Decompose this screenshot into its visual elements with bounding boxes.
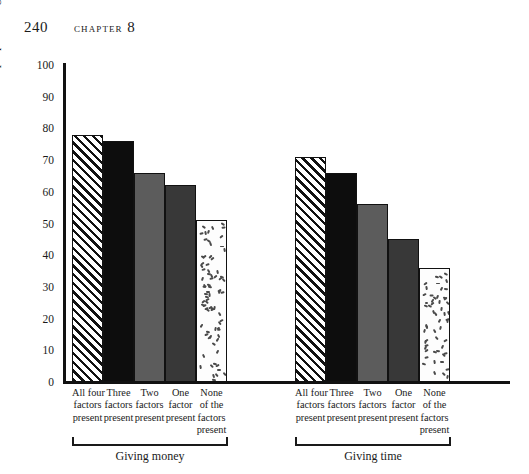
speckle-mark [447, 319, 449, 323]
category-label-line: One [388, 387, 419, 399]
category-label-line: factors [103, 399, 134, 411]
category-label-line: One [165, 387, 196, 399]
speckle-mark [200, 365, 202, 369]
speckle-mark [424, 282, 428, 285]
speckle-mark [433, 371, 436, 375]
category-label-line: present [419, 424, 450, 436]
category-label-line: of the [419, 399, 450, 411]
category-label: All fourfactorspresent [295, 387, 326, 437]
speckle-mark [437, 295, 440, 299]
speckle-mark [426, 286, 428, 290]
speckle-mark [439, 361, 443, 363]
speckle-mark [211, 257, 215, 260]
speckle-mark [214, 275, 218, 278]
category-label-line: present [165, 412, 196, 424]
speckle-mark [222, 278, 225, 282]
speckle-mark [215, 373, 218, 377]
bar-group-giving-money [72, 60, 227, 382]
speckle-mark [202, 277, 205, 281]
category-label: Threefactorspresent [326, 387, 357, 437]
speckle-mark [210, 278, 214, 280]
speckle-mark [202, 225, 206, 228]
speckle-mark [423, 329, 425, 333]
speckle-mark [442, 372, 446, 376]
category-label-line: present [134, 412, 165, 424]
speckle-mark [444, 288, 448, 290]
speckle-mark [220, 223, 224, 226]
category-label: Noneof thefactorspresent [419, 387, 450, 437]
category-label: Threefactorspresent [103, 387, 134, 437]
y-axis-tick-60: 60 [8, 186, 54, 198]
category-label-line: factors [196, 412, 227, 424]
category-label-line: Two [134, 387, 165, 399]
speckle-mark [222, 227, 226, 229]
speckle-mark [204, 292, 208, 294]
bar [419, 268, 450, 382]
speckle-mark [205, 333, 209, 336]
y-axis-tick-0: 0 [8, 376, 54, 388]
y-axis-tick-30: 30 [8, 281, 54, 293]
speckle-mark [212, 362, 216, 364]
speckle-mark [216, 337, 219, 341]
category-label-line: All four [295, 387, 326, 399]
category-label-line: present [72, 412, 103, 424]
speckle-mark [425, 357, 429, 359]
category-labels-group-1: All fourfactorspresentThreefactorspresen… [295, 387, 450, 437]
speckle-mark [425, 349, 429, 352]
category-label-line: present [103, 412, 134, 424]
speckle-mark [207, 273, 211, 275]
speckle-mark [224, 248, 226, 252]
category-label-line: factors [326, 399, 357, 411]
bar [72, 135, 103, 382]
plot-area [66, 60, 510, 382]
category-label: Twofactorspresent [134, 387, 165, 437]
speckle-mark [446, 279, 449, 283]
speckle-mark [216, 364, 220, 367]
category-label-line: factors [72, 399, 103, 411]
speckle-mark [200, 233, 204, 235]
speckle-mark [446, 369, 450, 371]
speckle-mark [217, 270, 219, 274]
speckle-mark [444, 272, 448, 275]
speckle-mark [441, 345, 444, 349]
speckle-mark [434, 312, 437, 316]
category-label-line: present [295, 412, 326, 424]
speckle-mark [209, 293, 211, 297]
category-label-line: present [196, 424, 227, 436]
speckle-mark [209, 335, 212, 339]
speckle-mark [444, 339, 448, 342]
speckle-mark [433, 329, 436, 333]
category-label: All fourfactorspresent [72, 387, 103, 437]
category-label-line: Two [357, 387, 388, 399]
category-label-line: None [196, 387, 227, 399]
speckle-mark [425, 339, 427, 343]
speckle-mark [202, 268, 206, 270]
speckle-mark [200, 264, 203, 268]
bar [326, 173, 357, 382]
category-labels-group-0: All fourfactorspresentThreefactorspresen… [72, 387, 227, 437]
y-axis-tick-80: 80 [8, 122, 54, 134]
speckle-mark [221, 291, 225, 293]
speckle-mark [218, 312, 221, 316]
category-label-line: None [419, 387, 450, 399]
bar [165, 185, 196, 382]
speckle-mark [423, 293, 427, 296]
category-label-line: of the [196, 399, 227, 411]
speckle-mark [217, 369, 221, 371]
speckle-mark [439, 275, 443, 278]
group-name-giving-money: Giving money [72, 449, 228, 464]
speckle-mark [422, 363, 426, 365]
group-name-giving-time: Giving time [295, 449, 451, 464]
speckle-mark [440, 326, 442, 330]
speckle-mark [441, 306, 443, 310]
category-label: Twofactorspresent [357, 387, 388, 437]
category-label-line: present [326, 412, 357, 424]
speckle-mark [212, 378, 216, 380]
category-label: Noneof thefactorspresent [196, 387, 227, 437]
bar [357, 204, 388, 382]
y-axis-tick-labels: 0102030405060708090100 [0, 0, 62, 474]
group-bracket-giving-time [295, 437, 451, 446]
category-label-line: All four [72, 387, 103, 399]
speckle-mark [439, 319, 442, 323]
speckle-mark [210, 364, 214, 368]
